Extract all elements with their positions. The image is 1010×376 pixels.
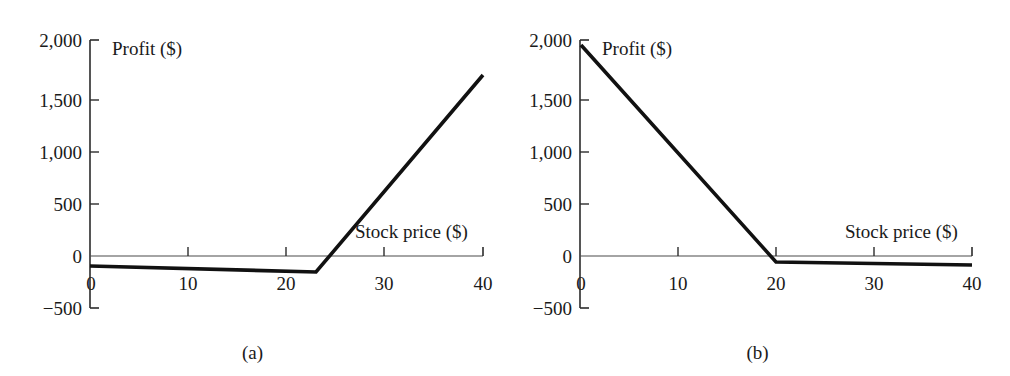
y-tick-label-0-b: 0 (563, 246, 573, 267)
x-tick-label-40-a: 40 (474, 273, 493, 294)
x-tick-label-0-b: 0 (576, 273, 586, 294)
y-tick-label-1500-a: 1,500 (39, 90, 82, 111)
chart-panel-a: 2,000 1,500 1,000 500 0 −500 0 10 20 30 … (0, 0, 505, 376)
y-tick-label-neg500-b: −500 (533, 298, 572, 319)
chart-panel-b: 2,000 1,500 1,000 500 0 −500 0 10 20 30 … (505, 0, 1010, 376)
x-tick-label-40-b: 40 (963, 273, 982, 294)
y-tick-label-neg500-a: −500 (43, 298, 82, 319)
x-tick-label-30-b: 30 (865, 273, 884, 294)
y-axis-title-b: Profit ($) (602, 38, 672, 60)
payoff-line-a (90, 75, 483, 272)
y-tick-label-1000-b: 1,000 (529, 142, 572, 163)
x-axis-title-a: Stock price ($) (355, 221, 468, 243)
x-tick-label-10-b: 10 (669, 273, 688, 294)
x-axis-title-b: Stock price ($) (845, 221, 958, 243)
y-tick-label-2000-a: 2,000 (39, 30, 82, 51)
panel-caption-a: (a) (0, 342, 505, 364)
x-tick-label-20-b: 20 (767, 273, 786, 294)
y-tick-label-0-a: 0 (73, 246, 83, 267)
y-tick-label-500-b: 500 (544, 194, 573, 215)
x-tick-label-20-a: 20 (277, 273, 296, 294)
x-tick-label-0-a: 0 (86, 273, 96, 294)
chart-svg-b: 2,000 1,500 1,000 500 0 −500 0 10 20 30 … (505, 0, 1010, 376)
panel-caption-b: (b) (505, 342, 1010, 364)
x-tick-label-10-a: 10 (179, 273, 198, 294)
y-tick-label-1500-b: 1,500 (529, 90, 572, 111)
y-tick-label-2000-b: 2,000 (529, 30, 572, 51)
chart-svg-a: 2,000 1,500 1,000 500 0 −500 0 10 20 30 … (0, 0, 505, 376)
figure-container: 2,000 1,500 1,000 500 0 −500 0 10 20 30 … (0, 0, 1010, 376)
y-tick-label-1000-a: 1,000 (39, 142, 82, 163)
x-tick-label-30-a: 30 (375, 273, 394, 294)
y-tick-label-500-a: 500 (54, 194, 83, 215)
y-axis-title-a: Profit ($) (112, 38, 182, 60)
